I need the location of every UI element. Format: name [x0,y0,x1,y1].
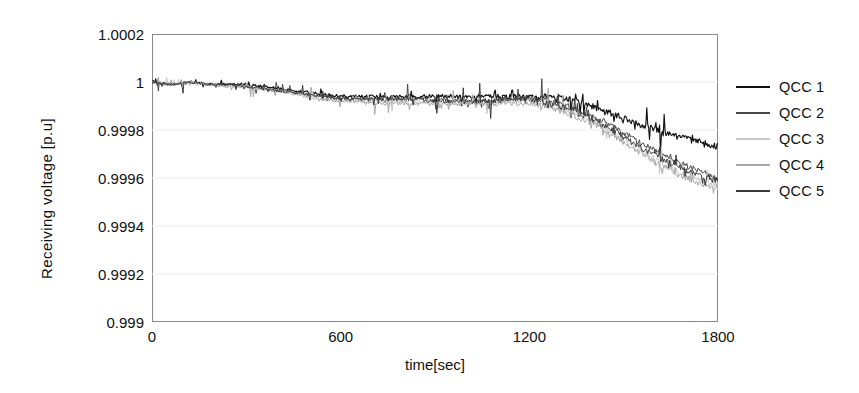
legend-line-swatch [736,80,770,94]
x-axis-tick-label: 1800 [678,328,758,345]
legend-line-swatch [736,158,770,172]
legend-item[interactable]: QCC 4 [736,152,856,178]
chart-figure: Receiving voltage [p.u] 1.000210.99980.9… [0,0,859,393]
legend-item-label: QCC 2 [779,105,824,121]
legend-item-label: QCC 4 [779,157,824,173]
legend-item[interactable]: QCC 1 [736,74,856,100]
legend-line-swatch [736,132,770,146]
x-axis-tick-labels: 060012001800 [0,0,859,393]
chart-legend: QCC 1QCC 2QCC 3QCC 4QCC 5 [736,74,856,204]
legend-item-label: QCC 3 [779,131,824,147]
legend-item-label: QCC 5 [779,183,824,199]
legend-line-swatch [736,184,770,198]
x-axis-tick-label: 600 [301,328,381,345]
legend-item-label: QCC 1 [779,79,824,95]
x-axis-tick-label: 0 [112,328,192,345]
legend-item[interactable]: QCC 2 [736,100,856,126]
legend-line-swatch [736,106,770,120]
x-axis-title: time[sec] [152,356,718,373]
legend-item[interactable]: QCC 5 [736,178,856,204]
x-axis-tick-label: 1200 [489,328,569,345]
legend-item[interactable]: QCC 3 [736,126,856,152]
